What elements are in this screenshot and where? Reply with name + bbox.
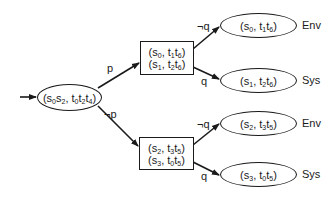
state-box-top: (s0, t1t6) (s1, t2t6)	[140, 41, 194, 75]
edge-label-p: p	[107, 62, 113, 74]
leaf-state-node-1: (s1, t2t6)	[220, 68, 297, 93]
leaf-3-label: (s3, t0t5)	[240, 169, 277, 181]
player-tag-3: Sys	[302, 168, 320, 180]
player-tag-0: Env	[302, 19, 321, 31]
leaf-state-node-3: (s3, t0t5)	[220, 162, 297, 187]
state-box-bottom: (s2, t3t5) (s3, t0t5)	[139, 137, 194, 170]
leaf-0-label: (s0, t1t6)	[240, 20, 277, 32]
box-top-line-2: (s1, t2t6)	[149, 58, 186, 70]
leaf-2-label: (s2, t3t5)	[240, 118, 277, 130]
root-state-node: (s0s2, t0t2t4)	[37, 84, 102, 111]
leaf-state-node-2: (s2, t3t5)	[220, 111, 297, 136]
leaf-state-node-0: (s0, t1t6)	[220, 13, 297, 38]
edge-label-q-bottom: q	[201, 170, 207, 182]
edge-label-not-p: ¬p	[104, 108, 117, 120]
edge-label-q-top: q	[201, 75, 207, 87]
box-top-line-1: (s0, t1t6)	[149, 46, 186, 58]
leaf-1-label: (s1, t2t6)	[240, 75, 277, 87]
edge-root-to-top	[98, 63, 139, 88]
box-bottom-line-2: (s3, t0t5)	[148, 154, 185, 166]
root-state-label: (s0s2, t0t2t4)	[43, 92, 96, 104]
edge-label-not-q-bottom: ¬q	[197, 118, 210, 130]
player-tag-2: Env	[302, 117, 321, 129]
edge-label-not-q-top: ¬q	[197, 20, 210, 32]
player-tag-1: Sys	[302, 74, 320, 86]
box-bottom-line-1: (s2, t3t5)	[148, 142, 185, 154]
